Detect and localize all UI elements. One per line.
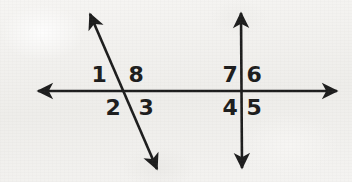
angle-label-7: 7	[223, 64, 238, 86]
angle-label-3: 3	[139, 97, 154, 119]
geometry-canvas	[0, 0, 352, 182]
geometry-figure: 1 8 2 3 7 6 4 5	[0, 0, 352, 182]
angle-label-1: 1	[92, 64, 107, 86]
angle-label-5: 5	[247, 97, 262, 119]
angle-label-8: 8	[129, 64, 144, 86]
angle-label-6: 6	[247, 64, 262, 86]
vertical-transversal-line	[241, 13, 242, 168]
angle-label-2: 2	[106, 97, 121, 119]
angle-label-4: 4	[223, 97, 238, 119]
